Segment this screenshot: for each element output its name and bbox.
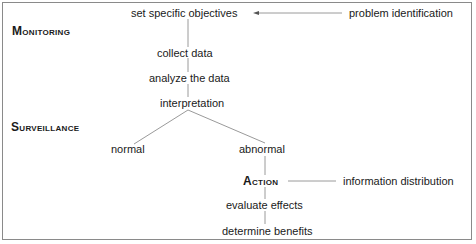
node-determine-benefits: determine benefits — [222, 225, 313, 237]
node-analyze-data: analyze the data — [149, 72, 230, 84]
node-action: Action — [243, 175, 278, 187]
arrow-head-icon — [253, 11, 259, 15]
edge-interpret-abnormal — [188, 110, 265, 143]
node-problem-identification: problem identification — [349, 7, 453, 19]
node-evaluate-effects: evaluate effects — [226, 199, 303, 211]
section-label-monitoring: Monitoring — [12, 25, 70, 37]
section-label-surveillance: Surveillance — [11, 121, 79, 133]
edge-interpret-normal — [134, 110, 188, 144]
node-interpretation: interpretation — [160, 97, 224, 109]
node-set-objectives: set specific objectives — [131, 7, 237, 19]
node-information-distribution: information distribution — [343, 175, 454, 187]
node-abnormal: abnormal — [239, 143, 285, 155]
node-normal: normal — [111, 143, 145, 155]
node-collect-data: collect data — [157, 47, 213, 59]
